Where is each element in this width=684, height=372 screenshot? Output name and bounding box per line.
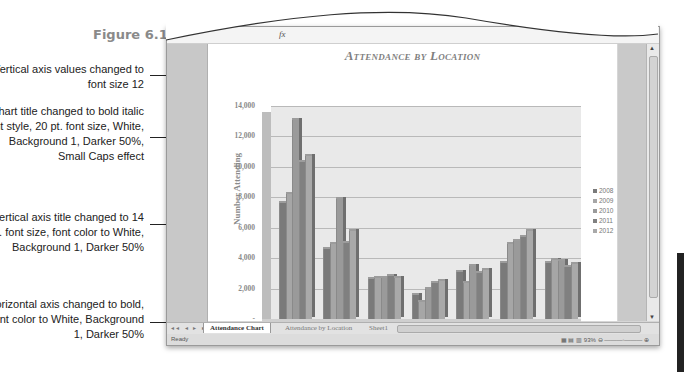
callout-horizontal-axis: Horizontal axis changed to bold, font co…: [0, 297, 144, 342]
legend-swatch-icon: [593, 199, 597, 203]
plot-area[interactable]: -2,0004,0006,0008,00010,00012,00014,000M…: [271, 106, 581, 319]
gridline: [271, 136, 581, 137]
legend-label: 2009: [599, 197, 613, 204]
tab-attendance-chart[interactable]: Attendance Chart: [203, 323, 271, 333]
view-buttons-icon[interactable]: ▦ ▤ ▥: [561, 337, 582, 343]
torn-edge-decoration: [166, 0, 684, 55]
zoom-in-icon[interactable]: ⊕: [644, 337, 649, 343]
bar-2012-garden-city[interactable]: [571, 264, 578, 319]
figure-label: Figure 6.12: [93, 27, 177, 42]
zoom-level[interactable]: 93%: [584, 337, 596, 343]
vertical-axis-title[interactable]: Number Attending: [232, 144, 242, 234]
y-axis-tick-label: 4,000: [211, 253, 255, 262]
excel-window: fx Attendance by Location Number Attendi…: [166, 26, 660, 346]
legend-item[interactable]: 2009: [593, 196, 613, 206]
vertical-scrollbar[interactable]: ▲ ▼: [646, 44, 659, 321]
zoom-control[interactable]: ▦ ▤ ▥ 93% ⊖ ———◦——— ⊕: [561, 336, 649, 343]
legend-item[interactable]: 2011: [593, 216, 613, 226]
y-axis-tick-label: 6,000: [211, 223, 255, 232]
legend-label: 2010: [599, 207, 613, 214]
legend-item[interactable]: 2008: [593, 186, 613, 196]
status-ready: Ready: [171, 336, 188, 342]
chart-sheet[interactable]: Attendance by Location Number Attending …: [208, 44, 617, 321]
gridline: [271, 197, 581, 198]
zoom-out-icon[interactable]: ⊖: [598, 337, 603, 343]
zoom-slider[interactable]: ———◦———: [604, 337, 642, 343]
chart-legend[interactable]: 20082009201020112012: [593, 186, 613, 236]
callout-vertical-axis-values: Vertical axis values changed to font siz…: [0, 62, 144, 92]
sheet-tabs-bar: ◂◂ ◂ ▸ ▸▸ Attendance Chart Attendance by…: [167, 322, 659, 334]
callout-vertical-axis-title: Vertical axis title changed to 14 pt. fo…: [0, 210, 144, 255]
bar-2012-manhattan[interactable]: [305, 156, 312, 319]
y-axis-tick-label: 12,000: [211, 131, 255, 140]
y-axis-tick-label: 2,000: [211, 284, 255, 293]
horizontal-scrollbar[interactable]: [397, 325, 641, 333]
bar-2012-white-plains[interactable]: [349, 231, 356, 319]
scrollbar-thumb[interactable]: [649, 56, 658, 298]
legend-swatch-icon: [593, 189, 597, 193]
legend-item[interactable]: 2012: [593, 226, 613, 236]
status-bar: Ready ▦ ▤ ▥ 93% ⊖ ———◦——— ⊕: [167, 334, 659, 345]
side-wall: [262, 112, 271, 325]
legend-item[interactable]: 2010: [593, 206, 613, 216]
y-axis-tick-label: 10,000: [211, 162, 255, 171]
scroll-down-arrow-icon[interactable]: ▼: [649, 314, 655, 320]
legend-label: 2011: [599, 217, 613, 224]
legend-swatch-icon: [593, 229, 597, 233]
bar-2012-montclair[interactable]: [438, 281, 445, 319]
tab-sheet1[interactable]: Sheet1: [363, 323, 394, 333]
legend-label: 2012: [599, 227, 613, 234]
legend-label: 2008: [599, 187, 613, 194]
bar-2012-hightstown[interactable]: [482, 270, 489, 319]
tab-attendance-by-location[interactable]: Attendance by Location: [279, 323, 358, 333]
page-edge-bar: [677, 253, 684, 372]
y-axis-tick-label: 8,000: [211, 192, 255, 201]
gridline: [271, 106, 581, 107]
y-axis-tick-label: 14,000: [211, 101, 255, 110]
callout-chart-title: Chart title changed to bold italic font …: [0, 104, 144, 164]
bar-2012-albany[interactable]: [394, 278, 401, 319]
bar-2012-newark[interactable]: [526, 231, 533, 319]
legend-swatch-icon: [593, 219, 597, 223]
legend-swatch-icon: [593, 209, 597, 213]
chart-sheet-margin-right: [618, 44, 646, 321]
gridline: [271, 167, 581, 168]
chart-sheet-margin-left: [167, 44, 208, 322]
